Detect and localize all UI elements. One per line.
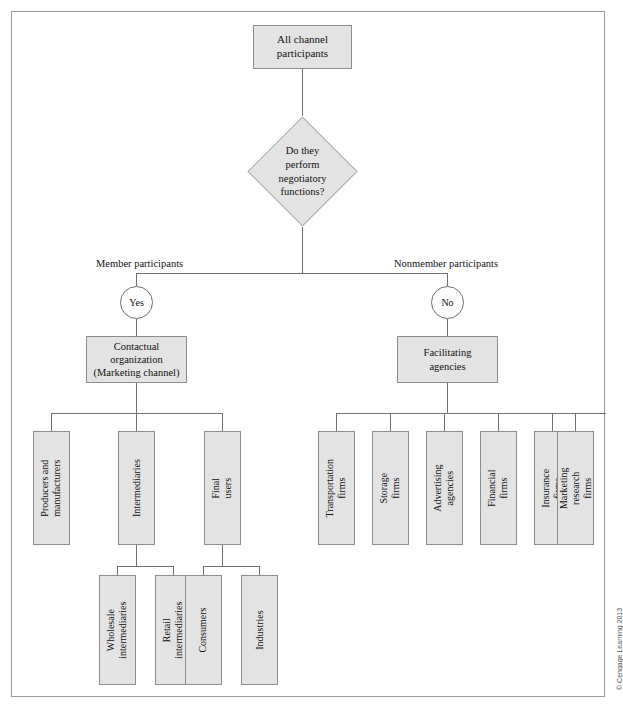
connector-facilitating-drop-2	[390, 413, 391, 431]
connector-member-drop-2	[136, 413, 137, 431]
node-label: Advertising agencies	[432, 464, 456, 511]
node-label: All channel participants	[277, 33, 328, 61]
node-producers-and-manufacturers: Producers and manufacturers	[33, 431, 70, 545]
connector-split-left-drop	[136, 273, 137, 286]
connector-final-users-drop-2	[259, 566, 260, 575]
node-label: Transportation firms	[324, 459, 348, 518]
node-label: Consumers	[197, 608, 209, 653]
node-marketing-research-firms: Marketing research firms	[557, 431, 594, 545]
connector-yes-to-contactual	[136, 319, 137, 336]
copyright-credit: © Cengage Learning 2013	[616, 608, 623, 690]
connector-intermediaries-drop-1	[117, 566, 118, 575]
decision-label: Do they perform negotiatory functions?	[247, 116, 358, 227]
node-label: Retail intermediaries	[161, 601, 185, 658]
connector-no-to-facilitating	[447, 319, 448, 336]
connector-final-users-bus	[203, 566, 259, 567]
connector-root-to-decision	[302, 69, 303, 116]
gate-no: No	[431, 286, 464, 319]
node-wholesale-intermediaries: Wholesale intermediaries	[99, 575, 136, 685]
node-facilitating-agencies: Facilitating agencies	[397, 336, 498, 383]
connector-facilitating-down	[447, 383, 448, 413]
connector-facilitating-bus	[336, 413, 606, 414]
connector-facilitating-drop-3	[444, 413, 445, 431]
node-all-channel-participants: All channel participants	[253, 25, 352, 69]
connector-intermediaries-bus	[117, 566, 173, 567]
connector-intermediaries-down	[136, 545, 137, 566]
connector-split-bus	[136, 273, 447, 274]
node-industries: Industries	[241, 575, 278, 685]
connector-contactual-down	[136, 383, 137, 413]
node-label: Intermediaries	[130, 459, 142, 517]
node-label: Marketing research firms	[557, 467, 594, 509]
branch-label-member-participants: Member participants	[96, 258, 183, 269]
node-consumers: Consumers	[185, 575, 222, 685]
node-financial-firms: Financial firms	[480, 431, 517, 545]
node-advertising-agencies: Advertising agencies	[426, 431, 463, 545]
gate-label: No	[441, 297, 453, 308]
node-final-users: Final users	[204, 431, 241, 545]
node-label: Final users	[210, 471, 234, 506]
node-label: Facilitating agencies	[424, 346, 472, 372]
node-storage-firms: Storage firms	[372, 431, 409, 545]
connector-decision-down	[302, 227, 303, 273]
connector-facilitating-drop-6b	[575, 413, 576, 431]
connector-member-drop-3	[222, 413, 223, 431]
node-label: Storage firms	[378, 471, 402, 506]
node-transportation-firms: Transportation firms	[318, 431, 355, 545]
node-label: Financial firms	[486, 469, 510, 506]
node-contactual-organization: Contactual organization (Marketing chann…	[86, 336, 187, 383]
connector-final-users-down	[222, 545, 223, 566]
connector-final-users-drop-1	[203, 566, 204, 575]
connector-facilitating-drop-4	[498, 413, 499, 431]
connector-intermediaries-drop-2	[173, 566, 174, 575]
connector-split-right-drop	[447, 273, 448, 286]
branch-label-nonmember-participants: Nonmember participants	[394, 258, 498, 269]
connector-member-drop-1	[51, 413, 52, 431]
node-label: Industries	[253, 610, 265, 649]
gate-label: Yes	[129, 297, 144, 308]
node-intermediaries: Intermediaries	[118, 431, 155, 545]
node-label: Producers and manufacturers	[39, 459, 63, 516]
connector-facilitating-drop-5	[552, 413, 553, 431]
node-label: Contactual organization (Marketing chann…	[93, 340, 179, 379]
node-label: Wholesale intermediaries	[105, 601, 129, 658]
gate-yes: Yes	[120, 286, 153, 319]
connector-facilitating-drop-1	[336, 413, 337, 431]
decision-node-negotiatory-functions: Do they perform negotiatory functions?	[247, 116, 358, 227]
